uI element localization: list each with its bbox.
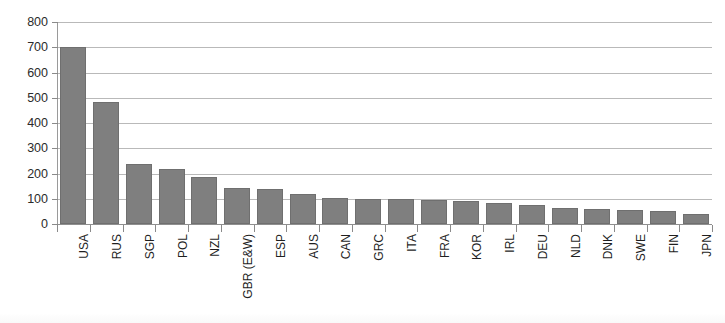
category-label-text: DEU — [537, 234, 549, 259]
x-axis-category-label: ESP — [275, 234, 287, 258]
bar-rus — [93, 102, 119, 224]
bar-aus — [290, 194, 316, 224]
category-label-text: USA — [78, 234, 90, 259]
category-label-text: DNK — [602, 234, 614, 259]
x-axis-category-label: USA — [78, 234, 90, 259]
category-label-text: POL — [177, 234, 189, 258]
x-tick — [516, 225, 517, 232]
x-axis-category-label: AUS — [308, 234, 320, 259]
x-axis-category-label: NZL — [209, 234, 221, 257]
x-axis-category-label: POL — [177, 234, 189, 258]
bar-dnk — [584, 209, 610, 224]
x-axis-category-label: SGP — [144, 234, 156, 259]
x-tick — [548, 225, 549, 232]
y-axis-tick-label: 300 — [27, 142, 48, 155]
x-tick — [221, 225, 222, 232]
category-label-text: SWE — [635, 234, 647, 261]
x-tick — [319, 225, 320, 232]
bar-esp — [257, 189, 283, 224]
category-label-text: KOR — [471, 234, 483, 260]
x-axis-category-label: FIN — [668, 234, 680, 253]
bar-irl — [486, 203, 512, 224]
x-axis-category-label: DEU — [537, 234, 549, 259]
category-label-text: RUS — [111, 234, 123, 259]
x-tick — [483, 225, 484, 232]
x-axis-category-label: RUS — [111, 234, 123, 259]
x-axis-category-label: KOR — [471, 234, 483, 260]
x-tick — [286, 225, 287, 232]
x-axis-labels: USARUSSGPPOLNZLGBR (E&W)ESPAUSCANGRCITAF… — [57, 234, 712, 320]
y-axis-tick-label: 200 — [27, 168, 48, 181]
x-axis-category-label: NLD — [570, 234, 582, 258]
x-tick — [614, 225, 615, 232]
x-axis-category-label: GBR (E&W) — [242, 234, 254, 299]
y-axis-tick-label: 400 — [27, 117, 48, 130]
category-label-text: SGP — [144, 234, 156, 259]
y-axis-tick-label: 600 — [27, 67, 48, 80]
x-tick — [254, 225, 255, 232]
bar-usa — [60, 47, 86, 224]
category-label-text: FRA — [439, 234, 451, 258]
bar-swe — [617, 210, 643, 224]
category-label-text: NZL — [209, 234, 221, 257]
x-tick — [123, 225, 124, 232]
y-axis-tick-label: 100 — [27, 193, 48, 206]
bar-pol — [159, 169, 185, 224]
bar-grc — [355, 199, 381, 224]
x-tick — [417, 225, 418, 232]
x-tick — [90, 225, 91, 232]
x-axis-category-label: FRA — [439, 234, 451, 258]
bar-sgp — [126, 164, 152, 224]
x-axis-category-label: DNK — [602, 234, 614, 259]
category-label-text: GBR (E&W) — [242, 234, 254, 299]
category-label-text: ITA — [406, 234, 418, 252]
x-axis-category-label: SWE — [635, 234, 647, 261]
category-label-text: NLD — [570, 234, 582, 258]
x-tick — [155, 225, 156, 232]
category-label-text: GRC — [373, 234, 385, 261]
x-tick — [679, 225, 680, 232]
bars-layer — [57, 22, 712, 224]
bar-nld — [552, 208, 578, 224]
bar-gbr-e-w- — [224, 188, 250, 224]
bar-jpn — [683, 214, 709, 224]
category-label-text: CAN — [340, 234, 352, 259]
bar-deu — [519, 205, 545, 224]
category-label-text: AUS — [308, 234, 320, 259]
bar-can — [322, 198, 348, 225]
y-axis-tick-label: 0 — [41, 218, 48, 231]
category-label-text: JPN — [701, 234, 713, 257]
x-axis-ticks — [57, 225, 712, 232]
category-label-text: FIN — [668, 234, 680, 253]
x-axis-category-label: CAN — [340, 234, 352, 259]
x-tick — [712, 225, 713, 232]
category-label-text: IRL — [504, 234, 516, 253]
x-tick — [188, 225, 189, 232]
bar-nzl — [191, 177, 217, 224]
x-tick — [450, 225, 451, 232]
x-tick — [352, 225, 353, 232]
bar-ita — [388, 199, 414, 224]
bar-fin — [650, 211, 676, 224]
y-axis-tick-label: 800 — [27, 16, 48, 29]
x-axis-category-label: GRC — [373, 234, 385, 261]
bar-kor — [453, 201, 479, 224]
x-tick — [581, 225, 582, 232]
y-axis-tick-label: 700 — [27, 41, 48, 54]
x-axis-category-label: ITA — [406, 234, 418, 252]
y-axis-tick-label: 500 — [27, 92, 48, 105]
x-axis-category-label: IRL — [504, 234, 516, 253]
x-tick — [385, 225, 386, 232]
x-axis-category-label: JPN — [701, 234, 713, 257]
bar-fra — [421, 200, 447, 224]
category-label-text: ESP — [275, 234, 287, 258]
x-tick — [57, 225, 58, 232]
x-tick — [647, 225, 648, 232]
bar-chart: 0100200300400500600700800 USARUSSGPPOLNZ… — [0, 0, 725, 323]
